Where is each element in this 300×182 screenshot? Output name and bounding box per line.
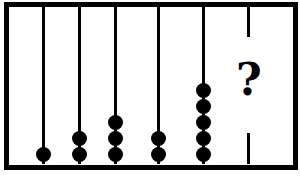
- bead: [196, 115, 211, 130]
- bead: [108, 147, 123, 162]
- rod-6-bottom-segment: [247, 133, 250, 164]
- bead: [108, 131, 123, 146]
- bead: [196, 147, 211, 162]
- rod-1: [42, 4, 45, 164]
- abacus-diagram: ?: [0, 0, 300, 182]
- bead: [196, 131, 211, 146]
- bead: [72, 147, 87, 162]
- question-mark: ?: [236, 58, 262, 102]
- bead: [72, 131, 87, 146]
- bead: [196, 99, 211, 114]
- bead: [196, 83, 211, 98]
- bead: [36, 147, 51, 162]
- rod-6-top-segment: [247, 4, 250, 37]
- bead: [108, 115, 123, 130]
- bead: [151, 147, 166, 162]
- bead: [151, 131, 166, 146]
